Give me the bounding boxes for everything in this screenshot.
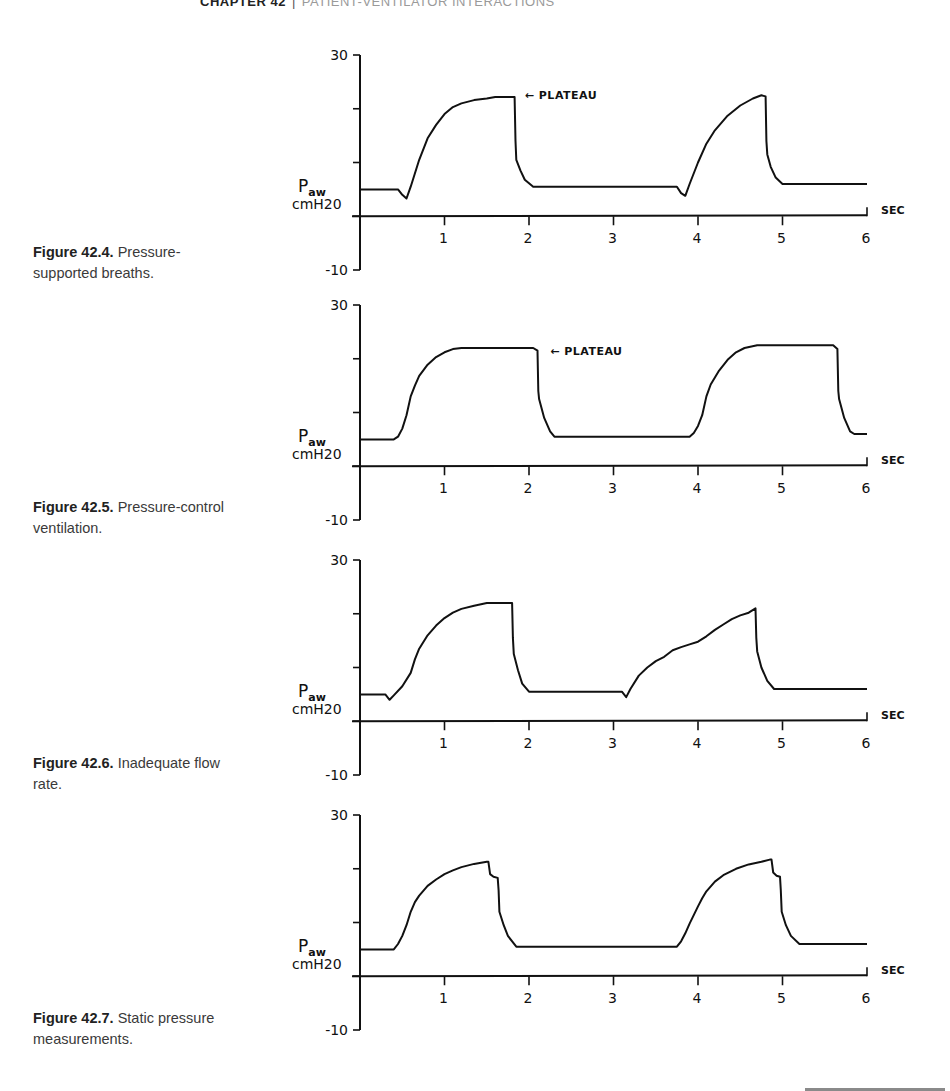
x-tick-label: 3	[608, 230, 617, 246]
y-tick-label: 30	[330, 297, 348, 313]
y-axis-unit: cmH20	[292, 196, 342, 212]
figure-42-4-chart: 30-10123456SECPawcmH20← PLATEAU	[280, 40, 920, 280]
y-axis-unit: cmH20	[292, 956, 342, 972]
x-tick-label: 1	[439, 990, 448, 1006]
x-tick-label: 3	[608, 480, 617, 496]
figure-42-5-svg: 30-10123456SECPawcmH20← PLATEAU	[280, 290, 920, 530]
figure-42-7-label: Figure 42.7.	[33, 1010, 114, 1026]
y-tick-label: 30	[330, 807, 348, 823]
x-axis	[352, 465, 867, 466]
figure-42-6-caption: Figure 42.6. Inadequate flow rate.	[33, 753, 243, 795]
figure-42-4-caption: Figure 42.4. Pressure-supported breaths.	[33, 242, 243, 284]
y-tick-label: -10	[325, 767, 348, 783]
plateau-annotation: ← PLATEAU	[550, 345, 622, 358]
figure-42-6-svg: 30-10123456SECPawcmH20	[280, 545, 920, 785]
x-tick-label: 6	[862, 735, 871, 751]
x-tick-label: 5	[777, 735, 786, 751]
x-tick-label: 4	[693, 230, 702, 246]
y-tick-label: -10	[325, 262, 348, 278]
x-axis-label: SEC	[881, 454, 905, 467]
figure-42-6-label: Figure 42.6.	[33, 755, 114, 771]
x-tick-label: 2	[524, 480, 533, 496]
x-tick-label: 4	[693, 990, 702, 1006]
x-tick-label: 5	[777, 230, 786, 246]
x-tick-label: 4	[693, 480, 702, 496]
figure-42-4-svg: 30-10123456SECPawcmH20← PLATEAU	[280, 40, 920, 280]
x-tick-label: 4	[693, 735, 702, 751]
running-head-title: PATIENT-VENTILATOR INTERACTIONS	[302, 0, 555, 9]
figure-42-5-label: Figure 42.5.	[33, 499, 114, 515]
y-tick-label: -10	[325, 1022, 348, 1038]
x-tick-label: 2	[524, 990, 533, 1006]
x-tick-label: 2	[524, 230, 533, 246]
x-tick-label: 6	[862, 480, 871, 496]
y-tick-label: 30	[330, 47, 348, 63]
running-head-chapter: CHAPTER 42	[200, 0, 286, 9]
x-tick-label: 6	[862, 230, 871, 246]
figure-42-6-chart: 30-10123456SECPawcmH20	[280, 545, 920, 785]
figure-42-7-svg: 30-10123456SECPawcmH20	[280, 800, 920, 1040]
y-axis-unit: cmH20	[292, 446, 342, 462]
x-axis-label: SEC	[881, 709, 905, 722]
x-tick-label: 6	[862, 990, 871, 1006]
y-axis-unit: cmH20	[292, 701, 342, 717]
x-tick-label: 3	[608, 735, 617, 751]
running-head: CHAPTER 42|PATIENT-VENTILATOR INTERACTIO…	[200, 0, 555, 9]
figure-42-4-label: Figure 42.4.	[33, 244, 114, 260]
pressure-waveform	[360, 603, 867, 700]
pressure-waveform	[360, 345, 867, 439]
x-axis-label: SEC	[881, 964, 905, 977]
figure-42-5-chart: 30-10123456SECPawcmH20← PLATEAU	[280, 290, 920, 530]
running-head-separator: |	[292, 0, 296, 9]
figure-42-5-caption: Figure 42.5. Pressure-control ventilatio…	[33, 497, 243, 539]
plateau-annotation: ← PLATEAU	[525, 89, 597, 102]
x-tick-label: 1	[439, 480, 448, 496]
pressure-waveform	[360, 95, 867, 198]
pressure-waveform	[360, 860, 867, 950]
figure-42-7-chart: 30-10123456SECPawcmH20	[280, 800, 920, 1040]
x-axis	[352, 975, 867, 976]
x-tick-label: 2	[524, 735, 533, 751]
x-tick-label: 1	[439, 735, 448, 751]
x-tick-label: 3	[608, 990, 617, 1006]
x-axis	[352, 720, 867, 721]
figure-42-7-caption: Figure 42.7. Static pressure measurement…	[33, 1008, 243, 1050]
x-tick-label: 5	[777, 990, 786, 1006]
x-axis	[352, 215, 867, 216]
x-tick-label: 1	[439, 230, 448, 246]
y-tick-label: 30	[330, 552, 348, 568]
y-tick-label: -10	[325, 512, 348, 528]
x-axis-label: SEC	[881, 204, 905, 217]
x-tick-label: 5	[777, 480, 786, 496]
